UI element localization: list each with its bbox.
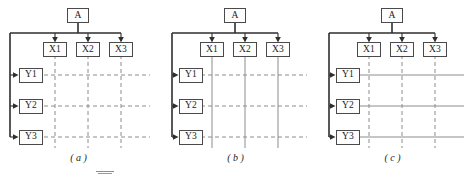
node-x3[interactable]: X3 — [266, 42, 290, 57]
node-y2-label: Y2 — [342, 101, 354, 111]
figure-root: A X1 X2 X3 Y1 Y2 Y3 ( a ) — [0, 0, 471, 174]
panel-b-y-arrowheads — [173, 72, 179, 140]
node-y1[interactable]: Y1 — [19, 68, 43, 83]
diagram-panel-b: A X1 X2 X3 Y1 Y2 Y3 ( b ) — [157, 0, 314, 174]
node-y3-label: Y3 — [185, 132, 197, 142]
node-y1[interactable]: Y1 — [336, 68, 360, 83]
panel-a-y-arrowheads — [13, 72, 19, 140]
node-x1-label: X1 — [206, 45, 218, 55]
panel-c-y-arrowheads — [330, 72, 336, 140]
node-y3[interactable]: Y3 — [179, 130, 203, 145]
node-a-label: A — [388, 11, 395, 21]
node-x2[interactable]: X2 — [390, 42, 414, 57]
node-x1-label: X1 — [363, 45, 375, 55]
node-x3[interactable]: X3 — [109, 42, 133, 57]
node-y2-label: Y2 — [185, 101, 197, 111]
node-x2[interactable]: X2 — [76, 42, 100, 57]
panel-a-horizontal-gridlines — [37, 75, 150, 137]
node-y3[interactable]: Y3 — [19, 130, 43, 145]
node-x2-label: X2 — [82, 45, 94, 55]
node-y1-label: Y1 — [25, 70, 37, 80]
cropped-rule-top — [96, 171, 114, 172]
node-a[interactable]: A — [67, 8, 89, 23]
diagram-panel-c: A X1 X2 X3 Y1 Y2 Y3 ( c ) — [314, 0, 471, 174]
node-x2[interactable]: X2 — [233, 42, 257, 57]
node-a-label: A — [231, 11, 238, 21]
panel-c-vertical-gridlines — [369, 55, 435, 148]
node-y3-label: Y3 — [342, 132, 354, 142]
node-x3-label: X3 — [115, 45, 127, 55]
node-x2-label: X2 — [396, 45, 408, 55]
node-x3[interactable]: X3 — [423, 42, 447, 57]
node-x1[interactable]: X1 — [43, 42, 67, 57]
cropped-caption-sliver — [96, 171, 326, 174]
panel-b-caption: ( b ) — [157, 152, 314, 163]
node-x1[interactable]: X1 — [200, 42, 224, 57]
node-x1-label: X1 — [49, 45, 61, 55]
node-y1-label: Y1 — [185, 70, 197, 80]
panel-c-caption: ( c ) — [314, 152, 471, 163]
panel-a-caption: ( a ) — [0, 152, 157, 163]
node-y2[interactable]: Y2 — [19, 99, 43, 114]
node-x2-label: X2 — [239, 45, 251, 55]
panel-b-horizontal-gridlines — [194, 75, 307, 137]
node-y2-label: Y2 — [25, 101, 37, 111]
panel-b-vertical-gridlines — [212, 55, 278, 148]
node-y2[interactable]: Y2 — [179, 99, 203, 114]
node-a-label: A — [74, 11, 81, 21]
panel-c-horizontal-gridlines — [351, 75, 464, 137]
node-y1-label: Y1 — [342, 70, 354, 80]
node-y1[interactable]: Y1 — [179, 68, 203, 83]
node-x3-label: X3 — [272, 45, 284, 55]
panel-a-vertical-gridlines — [55, 55, 121, 148]
diagram-panel-a: A X1 X2 X3 Y1 Y2 Y3 ( a ) — [0, 0, 157, 174]
node-y2[interactable]: Y2 — [336, 99, 360, 114]
node-x3-label: X3 — [429, 45, 441, 55]
node-a[interactable]: A — [381, 8, 403, 23]
node-y3[interactable]: Y3 — [336, 130, 360, 145]
node-x1[interactable]: X1 — [357, 42, 381, 57]
node-a[interactable]: A — [224, 8, 246, 23]
node-y3-label: Y3 — [25, 132, 37, 142]
cropped-rule-bottom — [98, 173, 112, 174]
